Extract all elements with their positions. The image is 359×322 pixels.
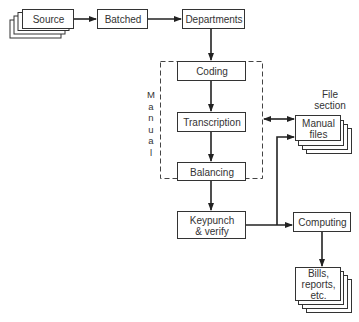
- source-label: Source: [23, 10, 74, 29]
- manual-letter: a: [146, 101, 156, 113]
- bills-label-line3: etc.: [310, 290, 326, 301]
- batched-label: Batched: [98, 10, 148, 29]
- manual-letter: a: [146, 135, 156, 147]
- manual-letter: M: [146, 89, 156, 101]
- departments-label: Departments: [183, 10, 245, 29]
- transcription-label: Transcription: [178, 113, 246, 132]
- file-section-line1: File: [305, 89, 355, 100]
- manual-files-label-line1: Manual: [302, 118, 335, 129]
- manual-letter: u: [146, 124, 156, 136]
- bills-label-line2: reports,: [302, 279, 336, 290]
- manual-letter: l: [146, 147, 156, 159]
- balancing-label: Balancing: [178, 163, 246, 181]
- edge-keypunch-manualfiles: [277, 137, 294, 225]
- keypunch-label-line1: Keypunch: [190, 215, 234, 226]
- keypunch-label-line2: & verify: [195, 226, 228, 237]
- manual-group-label: M a n u a l: [146, 89, 156, 158]
- file-section-line2: section: [305, 100, 355, 111]
- bills-label-line1: Bills,: [308, 268, 329, 279]
- manual-files-label: Manual files: [296, 116, 341, 141]
- coding-label: Coding: [178, 62, 246, 81]
- bills-label: Bills, reports, etc.: [296, 268, 341, 301]
- keypunch-label: Keypunch & verify: [178, 212, 246, 239]
- file-section-annotation: File section: [305, 89, 355, 111]
- manual-files-label-line2: files: [310, 129, 328, 140]
- computing-label: Computing: [294, 213, 351, 232]
- manual-letter: n: [146, 112, 156, 124]
